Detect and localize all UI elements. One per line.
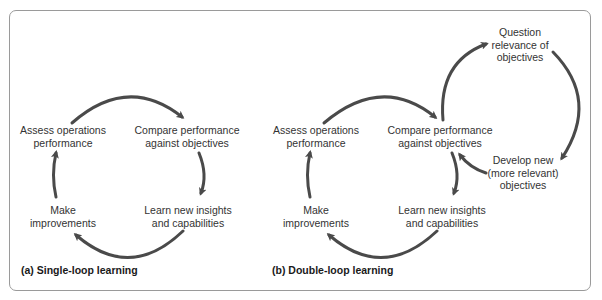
arrow-assess-to-compare: [72, 97, 182, 123]
node-text: Compare performance: [387, 124, 492, 137]
caption-single-loop: (a) Single-loop learning: [21, 264, 138, 276]
arrow-make-to-assess: [54, 153, 57, 197]
arrow-compare-to-learn-b: [452, 153, 457, 193]
arrow-develop-to-compare: [460, 155, 486, 173]
node-text: against objectives: [387, 137, 492, 150]
node-text: Compare performance: [134, 124, 239, 137]
node-text: objectives: [491, 51, 548, 64]
node-text: Learn new insights: [398, 204, 486, 217]
node-text: Assess operations: [273, 124, 359, 137]
arrow-compare-to-question: [443, 44, 486, 120]
node-text: performance: [20, 137, 106, 150]
arrow-question-to-develop: [553, 52, 579, 158]
arrow-assess-to-compare-b: [324, 97, 435, 123]
node-learn-a: Learn new insights and capabilities: [144, 204, 232, 229]
arrow-learn-to-make: [76, 231, 183, 258]
node-text: Question: [491, 26, 548, 39]
node-assess-b: Assess operations performance: [273, 124, 359, 149]
node-text: Assess operations: [20, 124, 106, 137]
node-make-b: Make improvements: [283, 204, 349, 229]
node-text: Learn new insights: [144, 204, 232, 217]
arrow-learn-to-make-b: [329, 231, 437, 258]
node-compare-b: Compare performance against objectives: [387, 124, 492, 149]
caption-double-loop: (b) Double-loop learning: [272, 264, 393, 276]
node-text: Make: [283, 204, 349, 217]
node-text: relevance of: [491, 39, 548, 52]
node-learn-b: Learn new insights and capabilities: [398, 204, 486, 229]
node-text: improvements: [283, 217, 349, 230]
arrow-compare-to-learn: [199, 153, 204, 193]
arrow-make-to-assess-b: [308, 153, 311, 197]
node-make-a: Make improvements: [30, 204, 96, 229]
node-text: and capabilities: [144, 217, 232, 230]
node-compare-a: Compare performance against objectives: [134, 124, 239, 149]
node-text: objectives: [487, 179, 558, 192]
node-assess-a: Assess operations performance: [20, 124, 106, 149]
node-text: Develop new: [487, 154, 558, 167]
node-question: Question relevance of objectives: [491, 26, 548, 64]
node-text: (more relevant): [487, 167, 558, 180]
node-text: performance: [273, 137, 359, 150]
node-text: improvements: [30, 217, 96, 230]
node-text: and capabilities: [398, 217, 486, 230]
node-text: Make: [30, 204, 96, 217]
node-text: against objectives: [134, 137, 239, 150]
node-develop: Develop new (more relevant) objectives: [487, 154, 558, 192]
